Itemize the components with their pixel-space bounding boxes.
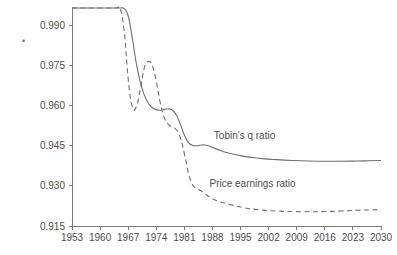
y-axis-tick-label: 0.930: [40, 180, 65, 191]
x-axis-tick-label: 1981: [173, 232, 196, 243]
series-label: Price earnings ratio: [210, 178, 297, 189]
y-axis-ticks: 0.9150.9300.9450.9600.9750.990: [40, 20, 72, 232]
x-axis-ticks: 1953196019671974198119881995200220092016…: [61, 226, 393, 243]
x-axis-tick-label: 1974: [145, 232, 168, 243]
x-axis-tick-label: 1988: [201, 232, 224, 243]
x-axis-tick-label: 2030: [370, 232, 393, 243]
series-label: Tobin's q ratio: [214, 130, 276, 141]
x-axis-tick-label: 2002: [258, 232, 281, 243]
y-axis-tick-label: 0.915: [40, 221, 65, 232]
chart-container: 0.9150.9300.9450.9600.9750.990 195319601…: [0, 0, 397, 255]
x-axis-tick-label: 2009: [286, 232, 309, 243]
x-axis-tick-label: 2016: [314, 232, 337, 243]
corner-dot-mark: •: [22, 36, 25, 46]
x-axis-tick-label: 1967: [117, 232, 140, 243]
x-axis-tick-label: 1960: [89, 232, 112, 243]
y-axis-tick-label: 0.960: [40, 100, 65, 111]
line-chart: 0.9150.9300.9450.9600.9750.990 195319601…: [0, 0, 397, 255]
x-axis-tick-label: 1953: [61, 232, 84, 243]
x-axis-tick-label: 1995: [229, 232, 252, 243]
y-axis-tick-label: 0.975: [40, 60, 65, 71]
y-axis-tick-label: 0.945: [40, 140, 65, 151]
x-axis-tick-label: 2023: [342, 232, 365, 243]
chart-axes: [72, 8, 381, 226]
y-axis-tick-label: 0.990: [40, 20, 65, 31]
